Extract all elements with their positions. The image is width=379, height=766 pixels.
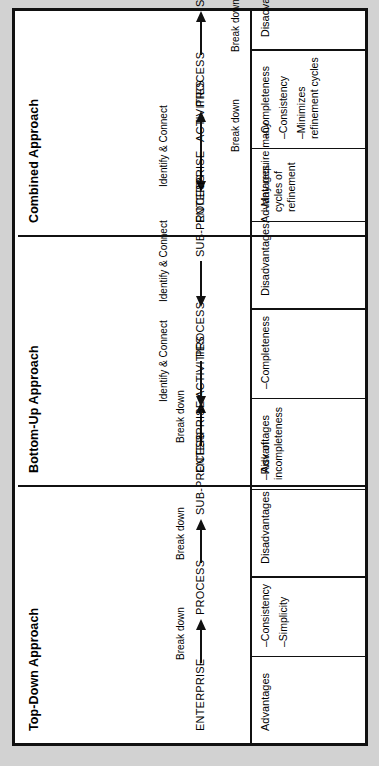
edge-label-break-down-2: Break down	[175, 507, 186, 560]
rotated-stage: Top-Down Approach ENTERPRISE Break down …	[18, 11, 368, 743]
advantages-body: –Completeness	[252, 310, 368, 399]
adtable-top-down: Advantages –Consistency –Simplicity Disa…	[250, 487, 368, 743]
diagram-top-down: ENTERPRISE Break down PROCESS Break down…	[44, 487, 250, 743]
figure-page: Top-Down Approach ENTERPRISE Break down …	[0, 0, 379, 766]
adtable-bottom-up: Advantages –Completeness Disadvantages –…	[250, 237, 368, 485]
advantages-header: Advantages	[252, 657, 368, 743]
panel-top-down: Top-Down Approach ENTERPRISE Break down …	[18, 487, 368, 743]
advantages-cell-top-down: Advantages –Consistency –Simplicity	[252, 578, 368, 743]
disadvantages-header: Disadvantages	[252, 490, 368, 576]
panel-combined: Combined Approach ENTERPRISE Break down …	[18, 11, 368, 237]
advantages-header: Advantages	[252, 399, 368, 485]
advantages-header: Advantages	[252, 149, 368, 235]
edge-label-identify-connect-1: Identify & Connect	[158, 320, 169, 402]
node-process: PROCESS	[194, 52, 206, 107]
advantages-body: –Consistency –Simplicity	[252, 578, 368, 657]
figure-frame: Top-Down Approach ENTERPRISE Break down …	[12, 8, 368, 746]
diagram-combined: ENTERPRISE Break down PROCESS Break down…	[44, 11, 250, 235]
advantage-item: –Consistency	[259, 584, 272, 647]
advantage-item: –Completeness	[259, 57, 272, 139]
node-process: PROCESS	[194, 560, 206, 615]
advantages-body: –Completeness –Consistency –Minimizes re…	[252, 51, 368, 149]
node-enterprise: ENTERPRISE	[194, 659, 206, 731]
approach-panels: Top-Down Approach ENTERPRISE Break down …	[18, 11, 368, 743]
edge-label-break-down-1: Break down	[175, 607, 186, 660]
node-sub-process: SUB-PROCESS	[194, 0, 206, 7]
advantage-item: –Completeness	[259, 316, 272, 389]
node-enterprise: ENTERPRISE	[194, 401, 206, 473]
advantage-item-cont: refinement cycles	[308, 57, 321, 139]
panel-bottom-up: Bottom-Up Approach ENTERPRISE Identify &…	[18, 237, 368, 487]
panel-title-bottom-up: Bottom-Up Approach	[18, 237, 44, 485]
panel-title-combined: Combined Approach	[18, 11, 44, 235]
advantages-cell-bottom-up: Advantages –Completeness	[252, 310, 368, 485]
disadvantages-header: Disadvantages	[252, 0, 368, 49]
advantage-item: –Simplicity	[277, 584, 290, 647]
advantage-item: –Minimizes	[295, 57, 308, 139]
node-enterprise: ENTERPRISE	[194, 151, 206, 223]
node-process: PROCESS	[194, 302, 206, 357]
disadvantages-cell-combined: Disadvantages –May require refinement of…	[252, 0, 368, 51]
diagram-bottom-up: ENTERPRISE Identify & Connect PROCESS Id…	[44, 237, 250, 485]
advantages-cell-combined: Advantages –Completeness –Consistency –M…	[252, 51, 368, 235]
adtable-combined: Advantages –Completeness –Consistency –M…	[250, 11, 368, 235]
panel-title-top-down: Top-Down Approach	[18, 487, 44, 743]
advantage-item: –Consistency	[277, 57, 290, 139]
edge-label-break-down-2: Break down	[230, 0, 241, 52]
edge-label-break-down-1: Break down	[230, 99, 241, 152]
